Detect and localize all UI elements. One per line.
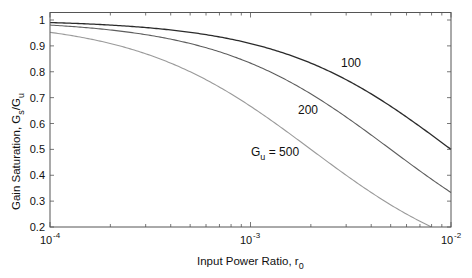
curve-gu-100 bbox=[50, 23, 451, 150]
y-tick-label: 0.3 bbox=[30, 195, 45, 207]
curve-label-100: 100 bbox=[341, 56, 361, 70]
curve-label-200: 200 bbox=[298, 103, 318, 117]
svg-text:10: 10 bbox=[40, 234, 52, 246]
y-tick-label: 0.4 bbox=[30, 169, 45, 181]
plot-frame bbox=[50, 13, 451, 228]
svg-text:10: 10 bbox=[240, 234, 252, 246]
x-tick-label-1e-2: 10 -2 bbox=[441, 231, 462, 246]
svg-text:-3: -3 bbox=[253, 231, 261, 240]
svg-text:-4: -4 bbox=[53, 231, 61, 240]
y-tick-label: 0.9 bbox=[30, 40, 45, 52]
y-tick-label: 1 bbox=[39, 14, 45, 26]
y-tick-label: 0.6 bbox=[30, 118, 45, 130]
y-tick-label: 0.7 bbox=[30, 92, 45, 104]
curve-gu-200 bbox=[50, 25, 451, 192]
y-tick-label: 0.5 bbox=[30, 143, 45, 155]
x-tick-label-1e-3: 10 -3 bbox=[240, 231, 261, 246]
y-tick-label: 0.2 bbox=[30, 221, 45, 233]
axis-ticks bbox=[50, 13, 451, 228]
curves-group bbox=[50, 23, 451, 227]
x-tick-label-1e-4: 10 -4 bbox=[40, 231, 61, 246]
svg-text:10: 10 bbox=[441, 234, 453, 246]
x-axis-title: Input Power Ratio, r0 bbox=[197, 255, 304, 271]
gain-saturation-chart: 0.20.30.40.50.60.70.80.91 10 -4 10 -3 10… bbox=[0, 0, 472, 278]
curve-label-500: Gu = 500 bbox=[251, 145, 299, 162]
y-tick-label: 0.8 bbox=[30, 66, 45, 78]
curve-gu-500 bbox=[50, 32, 431, 226]
svg-text:-2: -2 bbox=[454, 231, 462, 240]
y-axis-title: Gain Saturation, Gs/Gu bbox=[10, 93, 26, 210]
y-tick-labels: 0.20.30.40.50.60.70.80.91 bbox=[30, 14, 45, 233]
